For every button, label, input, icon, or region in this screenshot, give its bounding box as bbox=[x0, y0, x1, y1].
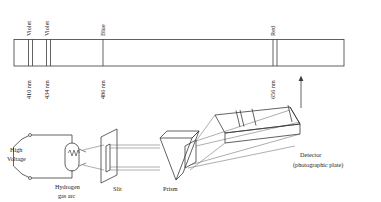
spectrum-band-outline bbox=[14, 40, 344, 67]
high-voltage-label-line1: High bbox=[10, 146, 23, 153]
high-voltage-circuit: High Voltage bbox=[7, 134, 72, 180]
source-label-line2: gas arc bbox=[58, 192, 76, 199]
spectrum-wavelength-labels: 410 nm 434 nm 486 nm 656 nm bbox=[25, 80, 277, 99]
detector-label-line1: Detector bbox=[300, 151, 321, 158]
source-label-line1: Hydrogen bbox=[55, 183, 80, 190]
spectrum-color-label-1: Violet bbox=[43, 21, 50, 36]
hydrogen-gas-arc-tube: Hydrogen gas arc bbox=[55, 143, 86, 199]
spectroscopy-figure: Violet Violet Blue Red 410 nm 434 nm 486… bbox=[0, 0, 381, 202]
detector-label-line2: (photographic plate) bbox=[293, 161, 343, 169]
prism-label: Prism bbox=[163, 185, 178, 192]
detector-plate: Detector (photographic plate) bbox=[190, 105, 343, 170]
slit-aperture bbox=[106, 144, 110, 172]
spectrum-color-labels: Violet Violet Blue Red bbox=[25, 21, 277, 36]
correspondence-arrow bbox=[299, 76, 304, 109]
slit-screen: Slit bbox=[101, 129, 122, 192]
spectrum-color-label-2: Blue bbox=[99, 24, 106, 36]
dispersed-ray-4 bbox=[188, 146, 295, 168]
slit-screen-plate bbox=[101, 129, 117, 183]
detector-front-face bbox=[225, 124, 300, 143]
spectrum-color-label-3: Red bbox=[269, 25, 276, 36]
gas-tube-discharge-coil bbox=[68, 150, 80, 156]
detector-to-prism-upper bbox=[196, 115, 215, 141]
spectrum-wavelength-label-0: 410 nm bbox=[25, 80, 32, 99]
correspondence-arrow-head bbox=[299, 76, 304, 82]
slit-label: Slit bbox=[113, 185, 122, 192]
plate-line-blue-486 bbox=[252, 109, 256, 126]
slit-to-prism-beam bbox=[110, 145, 160, 170]
plate-line-violet-410 bbox=[236, 111, 240, 128]
spectrum-wavelength-label-2: 486 nm bbox=[99, 80, 106, 99]
terminal-dot-top bbox=[29, 134, 32, 137]
dispersed-ray-1 bbox=[196, 110, 290, 141]
spectrum-wavelength-label-1: 434 nm bbox=[43, 80, 50, 99]
prism: Prism bbox=[160, 131, 199, 192]
dispersed-rays bbox=[188, 110, 300, 168]
spectrum-wavelength-label-3: 656 nm bbox=[269, 80, 276, 99]
terminal-dot-bottom bbox=[29, 177, 32, 180]
spectrum-band bbox=[14, 40, 344, 67]
high-voltage-label-line2: Voltage bbox=[7, 155, 26, 162]
prism-front-face bbox=[160, 138, 192, 180]
dispersed-ray-3 bbox=[190, 134, 300, 165]
spectrum-color-label-0: Violet bbox=[25, 21, 32, 36]
